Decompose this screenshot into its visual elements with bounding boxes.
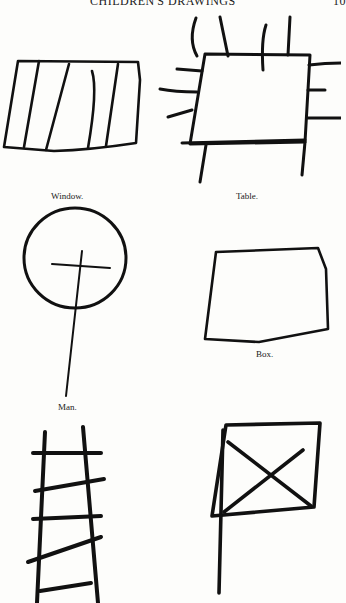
box-drawing [205, 248, 328, 342]
ladder-drawing [28, 427, 104, 603]
caption-window: Window. [51, 191, 83, 201]
flag-drawing [212, 423, 320, 593]
man-drawing [24, 208, 126, 308]
caption-man: Man. [58, 402, 77, 412]
caption-table: Table. [236, 191, 258, 201]
table-drawing [160, 17, 341, 182]
caption-box: Box. [256, 349, 273, 359]
window-drawing [4, 61, 140, 151]
